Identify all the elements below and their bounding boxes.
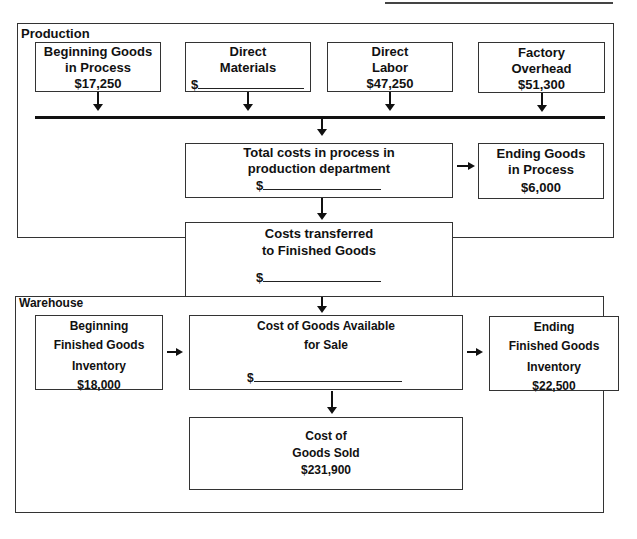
box-label: Direct [186, 44, 310, 60]
box-value: $231,900 [190, 462, 462, 479]
box-value: $47,250 [328, 76, 452, 92]
cost-of-goods-sold-box: Cost of Goods Sold $231,900 [189, 417, 463, 490]
arrow-down-icon [385, 104, 395, 111]
arrow-shaft [389, 92, 391, 104]
arrow-shaft [97, 92, 99, 104]
box-label: Inventory [490, 358, 618, 377]
dollar-sign: $ [247, 371, 254, 385]
total-costs-in-process-box: Total costs in process in production dep… [185, 143, 453, 198]
arrow-right-icon [176, 348, 183, 356]
dollar-sign: $ [256, 178, 263, 193]
arrow-shaft [321, 297, 323, 306]
box-label: Factory [479, 45, 604, 61]
box-label: Costs transferred [186, 226, 452, 242]
box-label: Ending Goods [479, 146, 603, 162]
box-value: $51,300 [479, 77, 604, 93]
box-label: Overhead [479, 61, 604, 77]
costs-transferred-box: Costs transferred to Finished Goods $ [185, 222, 453, 297]
summation-bar [35, 116, 605, 119]
box-value: $18,000 [36, 376, 162, 395]
arrow-shaft [321, 119, 323, 129]
arrow-down-icon [243, 104, 253, 111]
arrow-down-icon [317, 213, 327, 220]
warehouse-label: Warehouse [19, 296, 83, 310]
arrow-shaft [247, 92, 249, 104]
box-value: $17,250 [36, 76, 160, 92]
box-label: Ending [490, 318, 618, 337]
dollar-sign: $ [256, 270, 263, 285]
production-label: Production [21, 26, 90, 41]
dollar-sign: $ [191, 77, 198, 92]
beginning-finished-goods-box: Beginning Finished Goods Inventory $18,0… [35, 315, 163, 390]
beginning-goods-in-process-box: Beginning Goods in Process $17,250 [35, 42, 161, 92]
arrow-down-icon [93, 104, 103, 111]
box-label: production department [186, 161, 452, 177]
box-label: in Process [36, 60, 160, 76]
direct-materials-input[interactable] [198, 76, 304, 89]
box-label: Finished Goods [36, 336, 162, 355]
arrow-shaft [331, 391, 333, 408]
box-label: Finished Goods [490, 337, 618, 356]
box-label: Beginning Goods [36, 44, 160, 60]
box-label: Materials [186, 60, 310, 76]
factory-overhead-box: Factory Overhead $51,300 [478, 42, 605, 93]
top-rule [385, 2, 613, 4]
arrow-down-icon [317, 129, 327, 136]
box-value: $6,000 [479, 180, 603, 196]
ending-finished-goods-box: Ending Finished Goods Inventory $22,500 [489, 316, 619, 391]
total-costs-input[interactable] [263, 177, 381, 190]
costs-transferred-input[interactable] [263, 269, 381, 282]
cost-of-goods-available-input[interactable] [254, 369, 402, 382]
arrow-down-icon [317, 306, 327, 313]
box-value: $22,500 [490, 377, 618, 396]
arrow-right-icon [468, 162, 475, 170]
box-label: in Process [479, 162, 603, 178]
cost-of-goods-available-box: Cost of Goods Available for Sale $ [189, 315, 463, 390]
box-label: Total costs in process in [186, 145, 452, 161]
direct-labor-box: Direct Labor $47,250 [327, 42, 453, 92]
box-label: Goods Sold [190, 445, 462, 462]
arrow-down-icon [537, 105, 547, 112]
arrow-right-icon [476, 348, 483, 356]
box-label: Direct [328, 44, 452, 60]
box-label: Cost of Goods Available [190, 317, 462, 336]
box-label: to Finished Goods [186, 243, 452, 259]
arrow-down-icon [327, 407, 337, 414]
ending-goods-in-process-box: Ending Goods in Process $6,000 [478, 143, 604, 199]
box-label: for Sale [190, 336, 462, 355]
arrow-shaft [541, 93, 543, 105]
arrow-shaft [321, 198, 323, 213]
box-label: Inventory [36, 357, 162, 376]
box-label: Beginning [36, 317, 162, 336]
direct-materials-box: Direct Materials $ [185, 42, 311, 92]
box-label: Cost of [190, 428, 462, 445]
box-label: Labor [328, 60, 452, 76]
